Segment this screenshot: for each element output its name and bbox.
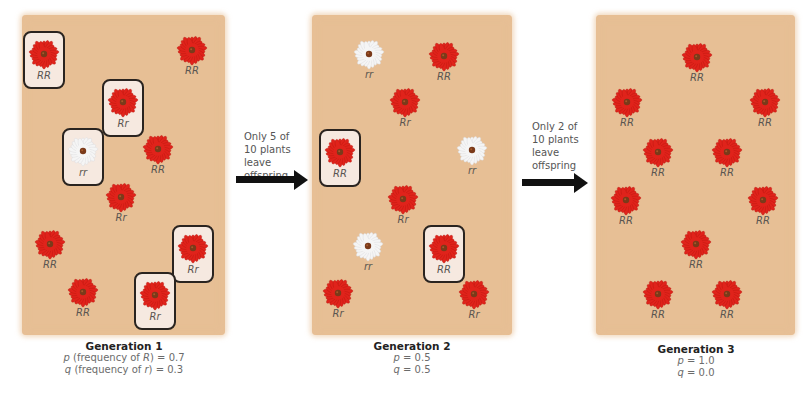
plant: RR xyxy=(424,36,464,88)
generation-1-caption: Generation 1 p (frequency of R) = 0.7 q … xyxy=(14,340,234,376)
genotype-label: RR xyxy=(63,307,103,318)
genotype-label: RR xyxy=(638,309,678,320)
red-flower-icon xyxy=(322,277,354,309)
generation-title: Generation 1 xyxy=(14,340,234,352)
plant: RR xyxy=(677,37,717,89)
right-arrow-icon xyxy=(522,179,576,186)
transition-2-note: Only 2 of 10 plants leave offspring xyxy=(532,120,602,172)
genotype-label: rr xyxy=(348,261,388,272)
red-flower-icon xyxy=(177,232,209,264)
plant: RR xyxy=(676,224,716,276)
transition-1-line: Only 5 of xyxy=(244,130,314,143)
right-arrow-icon xyxy=(236,176,296,183)
genotype-label: RR xyxy=(138,164,178,175)
transition-2-line: offspring xyxy=(532,159,602,172)
plant: RR xyxy=(745,82,785,134)
red-flower-icon xyxy=(680,228,712,260)
reproducing-plant: rr xyxy=(62,128,104,186)
red-flower-icon xyxy=(139,279,171,311)
transition-1-line: 10 plants xyxy=(244,143,314,156)
genotype-label: RR xyxy=(676,259,716,270)
genotype-label: RR xyxy=(25,70,63,81)
genotype-label: RR xyxy=(707,167,747,178)
generation-3-caption: Generation 3 p = 1.0 q = 0.0 xyxy=(586,343,806,379)
p-frequency: p (frequency of R) = 0.7 xyxy=(14,352,234,364)
red-flower-icon xyxy=(105,181,137,213)
generation-2-caption: Generation 2 p = 0.5 q = 0.5 xyxy=(302,340,522,376)
red-flower-icon xyxy=(428,232,460,264)
genotype-label: Rr xyxy=(454,309,494,320)
genotype-label: RR xyxy=(321,168,359,179)
red-flower-icon xyxy=(642,278,674,310)
red-flower-icon xyxy=(107,86,139,118)
red-flower-icon xyxy=(681,41,713,73)
red-flower-icon xyxy=(387,183,419,215)
plant: RR xyxy=(707,132,747,184)
red-flower-icon xyxy=(611,86,643,118)
red-flower-icon xyxy=(176,34,208,66)
red-flower-icon xyxy=(389,86,421,118)
red-flower-icon xyxy=(749,86,781,118)
reproducing-plant: RR xyxy=(23,31,65,89)
red-flower-icon xyxy=(67,276,99,308)
red-flower-icon xyxy=(428,40,460,72)
white-flower-icon xyxy=(352,230,384,262)
plant: RR xyxy=(743,180,783,232)
plant: RR xyxy=(138,129,178,181)
genotype-label: Rr xyxy=(136,311,174,322)
white-flower-icon xyxy=(353,38,385,70)
plant: RR xyxy=(30,224,70,276)
genotype-label: rr xyxy=(349,69,389,80)
genotype-label: RR xyxy=(745,117,785,128)
p-frequency: p = 0.5 xyxy=(302,352,522,364)
white-flower-icon xyxy=(67,135,99,167)
plant: RR xyxy=(63,272,103,324)
red-flower-icon xyxy=(642,136,674,168)
transition-1-line: leave xyxy=(244,156,314,169)
p-frequency: p = 1.0 xyxy=(586,355,806,367)
red-flower-icon xyxy=(747,184,779,216)
plant: rr xyxy=(349,34,389,86)
genotype-label: RR xyxy=(30,259,70,270)
plant: Rr xyxy=(454,274,494,326)
plant: RR xyxy=(638,274,678,326)
reproducing-plant: Rr xyxy=(172,225,214,283)
genotype-label: rr xyxy=(64,167,102,178)
plant: RR xyxy=(172,30,212,82)
transition-2-line: leave xyxy=(532,146,602,159)
red-flower-icon xyxy=(711,278,743,310)
genotype-label: RR xyxy=(606,215,646,226)
transition-2-line: Only 2 of xyxy=(532,120,602,133)
plant: RR xyxy=(707,274,747,326)
white-flower-icon xyxy=(456,134,488,166)
genotype-label: RR xyxy=(424,71,464,82)
genotype-label: Rr xyxy=(383,214,423,225)
genotype-label: rr xyxy=(452,165,492,176)
genotype-label: RR xyxy=(638,167,678,178)
plant: RR xyxy=(638,132,678,184)
genotype-label: Rr xyxy=(318,308,358,319)
plant: Rr xyxy=(318,273,358,325)
red-flower-icon xyxy=(34,228,66,260)
transition-2-line: 10 plants xyxy=(532,133,602,146)
reproducing-plant: Rr xyxy=(134,272,176,330)
genotype-label: Rr xyxy=(385,117,425,128)
genotype-label: Rr xyxy=(101,212,141,223)
red-flower-icon xyxy=(142,133,174,165)
red-flower-icon xyxy=(458,278,490,310)
red-flower-icon xyxy=(711,136,743,168)
genotype-label: RR xyxy=(607,117,647,128)
generation-title: Generation 2 xyxy=(302,340,522,352)
genotype-label: RR xyxy=(707,309,747,320)
genotype-label: Rr xyxy=(104,118,142,129)
q-frequency: q = 0.5 xyxy=(302,364,522,376)
genotype-label: RR xyxy=(172,65,212,76)
genotype-label: RR xyxy=(743,215,783,226)
red-flower-icon xyxy=(610,184,642,216)
plant: RR xyxy=(606,180,646,232)
genotype-label: Rr xyxy=(174,264,212,275)
genotype-label: RR xyxy=(677,72,717,83)
plant: rr xyxy=(452,130,492,182)
reproducing-plant: RR xyxy=(319,129,361,187)
plant: Rr xyxy=(385,82,425,134)
